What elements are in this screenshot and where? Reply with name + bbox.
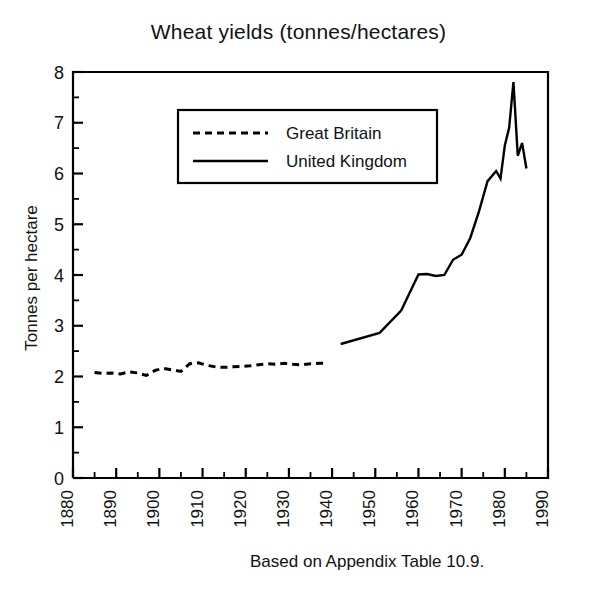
legend-label-great-britain: Great Britain	[286, 124, 381, 143]
source-annotation: Based on Appendix Table 10.9.	[250, 552, 484, 572]
wheat-yields-figure: Wheat yields (tonnes/hectares) Tonnes pe…	[0, 0, 597, 610]
y-axis-ticks: 012345678	[54, 63, 83, 489]
y-tick-label: 7	[54, 113, 64, 133]
legend-box	[178, 110, 437, 183]
x-tick-label: 1980	[490, 490, 509, 528]
x-tick-label: 1900	[144, 490, 163, 528]
y-tick-label: 6	[54, 164, 64, 184]
x-tick-label: 1910	[188, 490, 207, 528]
series-line-great-britain	[95, 363, 328, 376]
y-tick-label: 1	[54, 418, 64, 438]
x-tick-label: 1950	[360, 490, 379, 528]
x-tick-label: 1970	[447, 490, 466, 528]
plot-area: 012345678 188018901900191019201930194019…	[0, 0, 597, 610]
x-tick-label: 1990	[533, 490, 552, 528]
y-tick-label: 5	[54, 215, 64, 235]
y-tick-label: 8	[54, 63, 64, 83]
x-tick-label: 1930	[274, 490, 293, 528]
x-tick-label: 1960	[403, 490, 422, 528]
y-tick-label: 2	[54, 367, 64, 387]
x-tick-label: 1880	[58, 490, 77, 528]
x-tick-label: 1920	[231, 490, 250, 528]
legend-label-united-kingdom: United Kingdom	[286, 152, 407, 171]
y-tick-label: 0	[54, 469, 64, 489]
chart-legend: Great BritainUnited Kingdom	[178, 110, 437, 183]
y-tick-label: 3	[54, 316, 64, 336]
x-tick-label: 1890	[101, 490, 120, 528]
y-tick-label: 4	[54, 266, 64, 286]
x-tick-label: 1940	[317, 490, 336, 528]
